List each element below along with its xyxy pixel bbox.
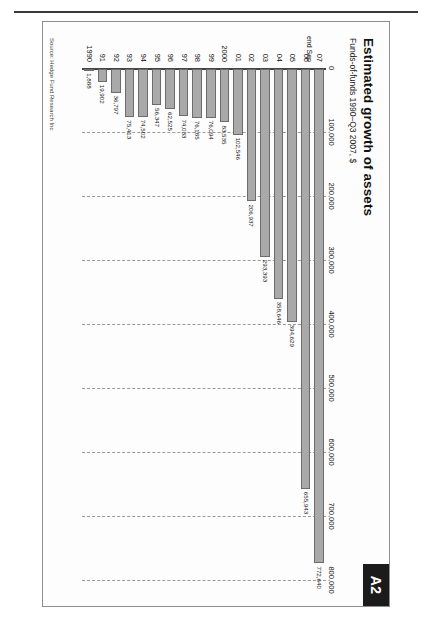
category-label: 04 [274, 53, 283, 61]
category-label: 96 [165, 53, 174, 61]
bar-value-label: 772,640 [315, 566, 322, 588]
bar [192, 69, 202, 118]
gridline [82, 388, 326, 389]
chart-source-note: Source: Hedge Fund Research Inc [49, 38, 55, 130]
bar-value-label: 75,413 [125, 120, 132, 139]
bar-value-label: 74,502 [139, 119, 146, 138]
x-axis-tick-label: 400,000 [327, 310, 336, 337]
gridline [82, 580, 326, 581]
category-label: 94 [138, 53, 147, 61]
x-axis-tick-labels: 0100,000200,000300,000400,000500,000600,… [327, 68, 365, 580]
rotated-page-canvas: A2 Estimated growth of assets Funds-of-f… [42, 21, 390, 607]
bar [273, 69, 283, 299]
bar [300, 69, 310, 489]
x-axis-tick-label: 300,000 [327, 246, 336, 273]
bar [287, 69, 297, 322]
category-label: 97 [179, 53, 188, 61]
category-label: 1990 [84, 45, 93, 62]
bar [165, 69, 175, 109]
bar-value-label: 36,797 [112, 95, 119, 114]
bar-value-label: 83,535 [220, 125, 227, 144]
bar-value-label: 76,094 [207, 120, 214, 139]
bar [260, 69, 270, 257]
category-label: 91 [97, 53, 106, 61]
x-axis-tick-label: 100,000 [327, 118, 336, 145]
bar-value-label: 1,888 [85, 73, 92, 88]
category-label: 03 [260, 53, 269, 61]
bar-value-label: 206,937 [247, 204, 254, 226]
bar [178, 69, 188, 116]
bar [124, 69, 134, 117]
category-label-note: end Sep [305, 35, 312, 61]
bar [246, 69, 256, 201]
bar-value-label: 74,033 [180, 119, 187, 138]
category-label: 2000 [219, 45, 228, 62]
bar [83, 69, 93, 71]
category-label: 05 [287, 53, 296, 61]
bar [97, 69, 107, 82]
category-label: 98 [192, 53, 201, 61]
bar [205, 69, 215, 118]
bar-value-label: 293,393 [261, 259, 268, 281]
page-top-rule [14, 11, 418, 13]
category-label: 02 [246, 53, 255, 61]
bar-value-label: 19,902 [98, 84, 105, 103]
plot-area: 1,88819,90236,79775,41374,50256,34762,52… [82, 68, 326, 580]
category-axis-labels: 1990919293949596979899200001020304050607… [82, 22, 326, 66]
gridline [82, 452, 326, 453]
bar [151, 69, 161, 105]
bar-value-label: 76,185 [193, 120, 200, 139]
category-label: 07 [314, 53, 323, 61]
bar-value-label: 358,646 [275, 301, 282, 323]
x-axis-tick-label: 800,000 [327, 566, 336, 593]
bar-value-label: 394,629 [288, 324, 295, 346]
x-axis-tick-label: 0 [327, 65, 336, 69]
bar [219, 69, 229, 122]
category-label: 01 [233, 53, 242, 61]
category-label: 92 [111, 53, 120, 61]
bar [111, 69, 121, 93]
bar [314, 69, 324, 563]
bar-value-label: 62,525 [166, 112, 173, 131]
x-axis-tick-label: 700,000 [327, 502, 336, 529]
category-label: 99 [206, 53, 215, 61]
figure-panel: A2 Estimated growth of assets Funds-of-f… [42, 21, 390, 607]
bar-value-label: 655,943 [302, 491, 309, 513]
bar-value-label: 56,347 [153, 108, 160, 127]
bar [138, 69, 148, 117]
x-axis-tick-label: 200,000 [327, 182, 336, 209]
category-label: 95 [152, 53, 161, 61]
bar [233, 69, 243, 135]
category-label: 93 [124, 53, 133, 61]
bar-value-label: 102,546 [234, 137, 241, 159]
x-axis-tick-label: 600,000 [327, 438, 336, 465]
gridline [82, 516, 326, 517]
exhibit-tab-badge: A2 [363, 564, 389, 606]
x-axis-tick-label: 500,000 [327, 374, 336, 401]
